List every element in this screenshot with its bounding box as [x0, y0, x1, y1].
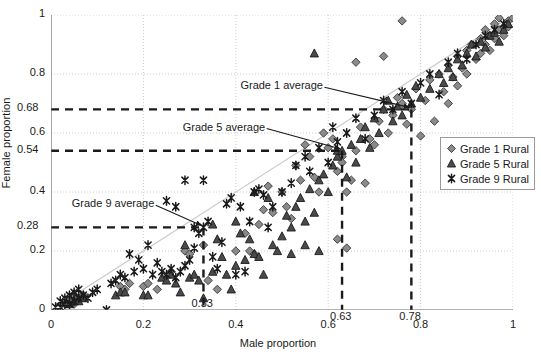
data-point [218, 253, 226, 261]
data-point [440, 88, 448, 96]
reference-x-label: 0.33 [191, 297, 212, 309]
data-point [347, 140, 355, 148]
data-point [176, 288, 184, 296]
data-point [464, 55, 470, 64]
data-point [301, 217, 309, 225]
triangle-icon [445, 157, 458, 170]
data-point [182, 176, 188, 185]
data-point [214, 264, 220, 273]
data-point [259, 206, 267, 214]
data-point [163, 197, 169, 206]
reference-y-label: 0.28 [17, 219, 38, 231]
data-point [270, 202, 276, 211]
data-point [334, 138, 340, 147]
data-point [241, 255, 249, 263]
data-point [233, 270, 239, 279]
data-point [301, 141, 309, 149]
data-point [454, 49, 460, 58]
x-tick-label: 0.4 [216, 318, 256, 330]
data-point [140, 264, 146, 273]
data-point [154, 259, 160, 268]
data-point [103, 306, 109, 310]
data-point [260, 191, 266, 200]
data-point [247, 217, 253, 226]
data-point [213, 285, 221, 293]
legend-item-label: Grade 9 Rural [460, 173, 529, 185]
data-point [181, 241, 189, 249]
x-axis-title: Male proportion [188, 337, 368, 349]
data-point [440, 78, 448, 86]
data-point [403, 120, 411, 128]
data-point [399, 87, 405, 96]
legend-item[interactable]: Grade 1 Rural [445, 141, 529, 156]
data-point [384, 129, 392, 137]
data-point [136, 256, 142, 265]
data-point [264, 182, 272, 190]
data-point [237, 202, 243, 211]
data-point [228, 194, 234, 203]
data-point [232, 247, 240, 255]
data-point [204, 276, 212, 284]
data-point [306, 185, 314, 193]
chart-root: Female proportion Male proportion 00.20.… [0, 0, 541, 360]
y-tick-label: 0 [5, 302, 45, 314]
y-tick-label: 0.8 [5, 66, 45, 78]
data-point [278, 232, 286, 240]
x-tick-label: 0.2 [123, 318, 163, 330]
data-point [352, 158, 360, 166]
data-point [330, 123, 336, 132]
data-point [398, 111, 406, 119]
data-point [145, 241, 151, 250]
data-point [310, 49, 318, 57]
data-point [296, 194, 304, 202]
data-point [430, 117, 438, 125]
data-point [319, 170, 327, 178]
data-point [131, 267, 137, 276]
data-point [416, 93, 424, 101]
y-tick-label: 0.4 [5, 184, 45, 196]
data-point [232, 217, 240, 225]
x-star-icon [445, 172, 458, 185]
reference-y-label: 0.68 [17, 101, 38, 113]
data-point [329, 135, 337, 143]
annotation-label: Grade 1 average [240, 79, 323, 91]
data-point [287, 223, 295, 231]
data-point [445, 58, 451, 67]
data-point [418, 79, 424, 88]
legend-item[interactable]: Grade 9 Rural [445, 171, 529, 186]
data-point [319, 129, 327, 137]
data-point [173, 202, 179, 211]
data-point [200, 176, 206, 185]
y-tick-label: 1 [5, 7, 45, 19]
data-point [453, 82, 461, 90]
x-tick-label: 1 [493, 318, 533, 330]
data-point [282, 203, 290, 211]
guide-line-0.68 [51, 109, 411, 310]
data-point [190, 270, 198, 278]
data-point [307, 167, 313, 176]
data-point [361, 179, 369, 187]
data-point [342, 188, 350, 196]
data-point [301, 241, 309, 249]
data-point [352, 58, 360, 66]
data-point [210, 253, 216, 262]
data-point [315, 188, 323, 196]
data-point [150, 270, 156, 279]
y-tick-label: 0.2 [5, 243, 45, 255]
data-point [227, 285, 235, 293]
data-point [282, 211, 290, 219]
data-point [222, 270, 230, 278]
legend-item-label: Grade 5 Rural [460, 158, 529, 170]
data-point [232, 261, 240, 269]
data-point [255, 220, 263, 228]
data-point [389, 117, 397, 125]
data-point [296, 176, 304, 184]
annotation-leader-line [156, 205, 202, 225]
data-point [426, 84, 434, 92]
legend-item[interactable]: Grade 5 Rural [445, 156, 529, 171]
annotation-label: Grade 9 average [72, 197, 155, 209]
data-point [168, 264, 174, 273]
data-point [242, 267, 248, 276]
x-tick-label: 0 [31, 318, 71, 330]
data-point [343, 173, 351, 181]
